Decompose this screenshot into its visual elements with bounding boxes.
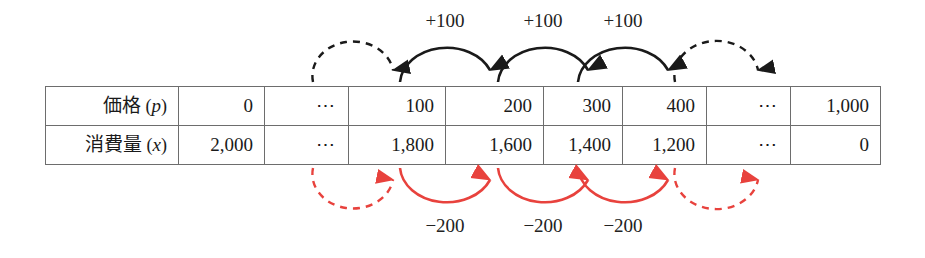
row-header-price: 価格 (p) <box>46 87 179 126</box>
top-arrow-2 <box>498 48 588 82</box>
cell-price-6: ⋯ <box>707 87 791 126</box>
cell-qty-3: 1,600 <box>446 126 544 165</box>
cell-price-0: 0 <box>179 87 265 126</box>
cell-price-2: 100 <box>349 87 446 126</box>
top-arrow-dashed-lead <box>312 41 393 82</box>
cell-qty-7: 0 <box>791 126 881 165</box>
table-row-quantity: 消費量 (x) 2,000 ⋯ 1,800 1,600 1,400 1,200 … <box>46 126 881 165</box>
cell-price-7: 1,000 <box>791 87 881 126</box>
row-header-price-text: 価格 <box>103 95 141 116</box>
row-header-quantity: 消費量 (x) <box>46 126 179 165</box>
top-arrow-dashed-tail <box>674 41 758 82</box>
row-header-quantity-text: 消費量 <box>85 134 142 155</box>
top-arrow-label-1: +100 <box>400 10 490 32</box>
figure-canvas: +100 +100 +100 価格 (p) 0 ⋯ 100 <box>0 0 925 258</box>
top-arrow-1 <box>400 48 490 82</box>
top-arrow-label-3: +100 <box>578 10 668 32</box>
top-arrow-3 <box>578 48 668 82</box>
table-row-price: 価格 (p) 0 ⋯ 100 200 300 400 ⋯ 1,000 <box>46 87 881 126</box>
bottom-arrow-1 <box>400 168 490 202</box>
bottom-arrow-label-2: −200 <box>498 215 588 237</box>
price-quantity-table: 価格 (p) 0 ⋯ 100 200 300 400 ⋯ 1,000 消費量 (… <box>45 86 880 163</box>
row-header-price-symbol: p <box>152 95 162 116</box>
bottom-arrow-dashed-tail <box>674 168 758 209</box>
cell-price-4: 300 <box>544 87 623 126</box>
bottom-arrow-2 <box>498 168 588 202</box>
cell-qty-4: 1,400 <box>544 126 623 165</box>
cell-qty-6: ⋯ <box>707 126 791 165</box>
cell-qty-1: ⋯ <box>265 126 349 165</box>
row-header-quantity-symbol: x <box>153 134 161 155</box>
cell-qty-5: 1,200 <box>623 126 707 165</box>
top-arrow-label-2: +100 <box>498 10 588 32</box>
bottom-arrow-label-1: −200 <box>400 215 490 237</box>
cell-qty-0: 2,000 <box>179 126 265 165</box>
cell-price-3: 200 <box>446 87 544 126</box>
cell-price-5: 400 <box>623 87 707 126</box>
bottom-arrow-3 <box>578 168 668 202</box>
bottom-arrow-label-3: −200 <box>578 215 668 237</box>
cell-price-1: ⋯ <box>265 87 349 126</box>
cell-qty-2: 1,800 <box>349 126 446 165</box>
bottom-arrow-dashed-lead <box>312 168 393 209</box>
